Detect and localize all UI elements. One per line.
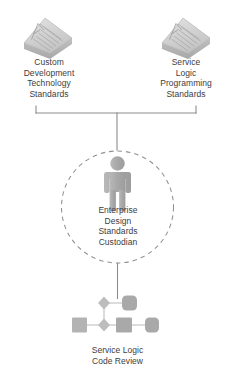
- diagram-canvas: Custom Development Technology Standards …: [0, 0, 235, 381]
- node-label-service-logic-programming-standards: Service Logic Programming Standards: [141, 57, 231, 99]
- standards-document-icon-right: [162, 18, 210, 59]
- standards-document-icon-left: [24, 18, 72, 59]
- process-workflow-icon: [72, 296, 159, 333]
- node-label-service-logic-code-review: Service Logic Code Review: [60, 345, 175, 367]
- node-label-enterprise-design-standards-custodian: Enterprise Design Standards Custodian: [73, 205, 163, 247]
- bracket-standards-to-custodian: [36, 106, 196, 150]
- node-label-custom-development-technology-standards: Custom Development Technology Standards: [4, 57, 94, 99]
- person-role-icon: [104, 156, 131, 211]
